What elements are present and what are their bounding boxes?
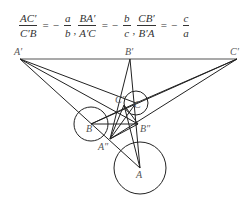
line-c-prime-a-dprime	[110, 59, 237, 139]
line-b-dprime-a-dprime	[110, 124, 138, 139]
line-b-prime-a	[130, 59, 140, 168]
label-c-dprime: C″	[115, 94, 127, 105]
label-b-prime: B′	[125, 46, 134, 57]
label-a-prime: A′	[13, 46, 23, 57]
label-c: C	[134, 99, 141, 110]
geometry-diagram: A′ B′ C′ A B C A″ B″ C″	[0, 0, 252, 211]
line-a-prime-a	[20, 59, 140, 168]
label-b-dprime: B″	[140, 123, 151, 134]
label-a-dprime: A″	[97, 141, 109, 152]
label-c-prime: C′	[230, 46, 240, 57]
label-a: A	[135, 169, 143, 180]
label-b: B	[86, 123, 92, 134]
line-c-prime-c	[136, 59, 237, 103]
